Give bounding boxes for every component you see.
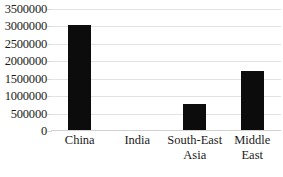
y-axis-tick-mark [47, 131, 52, 132]
x-axis-tick-label: Middle East [224, 133, 282, 162]
y-axis-labels: 3500000 3000000 2500000 2000000 1500000 … [0, 0, 47, 177]
bar-south-east-asia [183, 104, 206, 130]
bar-chart: 3500000 3000000 2500000 2000000 1500000 … [0, 0, 283, 177]
y-axis-tick-label: 1500000 [0, 73, 47, 86]
x-axis-labels: China India South-East Asia Middle East [51, 133, 281, 177]
axis-baseline [51, 130, 281, 131]
x-axis-tick-label: China [51, 133, 109, 148]
y-axis-tick-label: 2000000 [0, 55, 47, 68]
y-axis-tick-label: 500000 [0, 108, 47, 121]
y-axis-tick-label: 0 [0, 125, 47, 138]
gridline [51, 9, 281, 10]
y-axis-tick-label: 3500000 [0, 3, 47, 16]
y-axis-tick-label: 2500000 [0, 38, 47, 51]
plot-area [51, 9, 281, 131]
bar-china [68, 25, 91, 130]
x-axis-tick-label: India [109, 133, 167, 148]
bar-middle-east [241, 71, 264, 130]
x-axis-tick-label: South-East Asia [166, 133, 224, 162]
y-axis-tick-label: 3000000 [0, 20, 47, 33]
y-axis-tick-label: 1000000 [0, 90, 47, 103]
